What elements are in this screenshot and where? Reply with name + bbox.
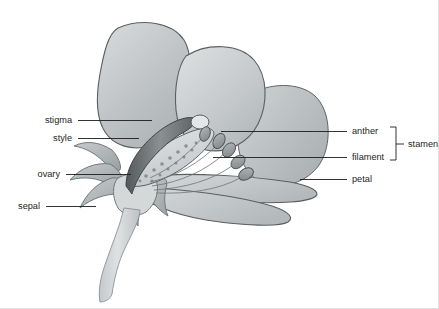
flower-illustration [70, 23, 328, 302]
stem [99, 208, 140, 302]
label-text-anther: anther [352, 126, 378, 136]
label-text-filament: filament [352, 152, 385, 162]
label-text-petal: petal [352, 174, 372, 184]
label-text-stigma: stigma [45, 115, 73, 125]
label-text-sepal: sepal [18, 201, 40, 211]
flower-diagram-canvas: stigma style ovary sepal anther filam [0, 0, 439, 309]
stamen-bracket [390, 127, 396, 160]
label-text-ovary: ovary [38, 169, 61, 179]
label-stamen-group: stamen [390, 127, 438, 160]
flower-diagram-figure: stigma style ovary sepal anther filam [0, 0, 439, 309]
label-text-stamen: stamen [408, 139, 438, 149]
label-petal: petal [300, 174, 372, 184]
label-text-style: style [53, 133, 72, 143]
